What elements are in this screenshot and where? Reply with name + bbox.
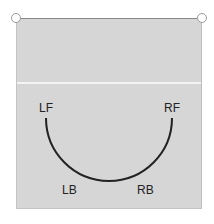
label-left-front: LF: [39, 102, 53, 114]
corner-handle-right[interactable]: [197, 13, 207, 23]
divider-line: [17, 82, 201, 84]
label-left-back: LB: [62, 184, 77, 196]
label-right-front: RF: [164, 102, 180, 114]
corner-handle-left[interactable]: [11, 13, 21, 23]
label-right-back: RB: [137, 184, 154, 196]
